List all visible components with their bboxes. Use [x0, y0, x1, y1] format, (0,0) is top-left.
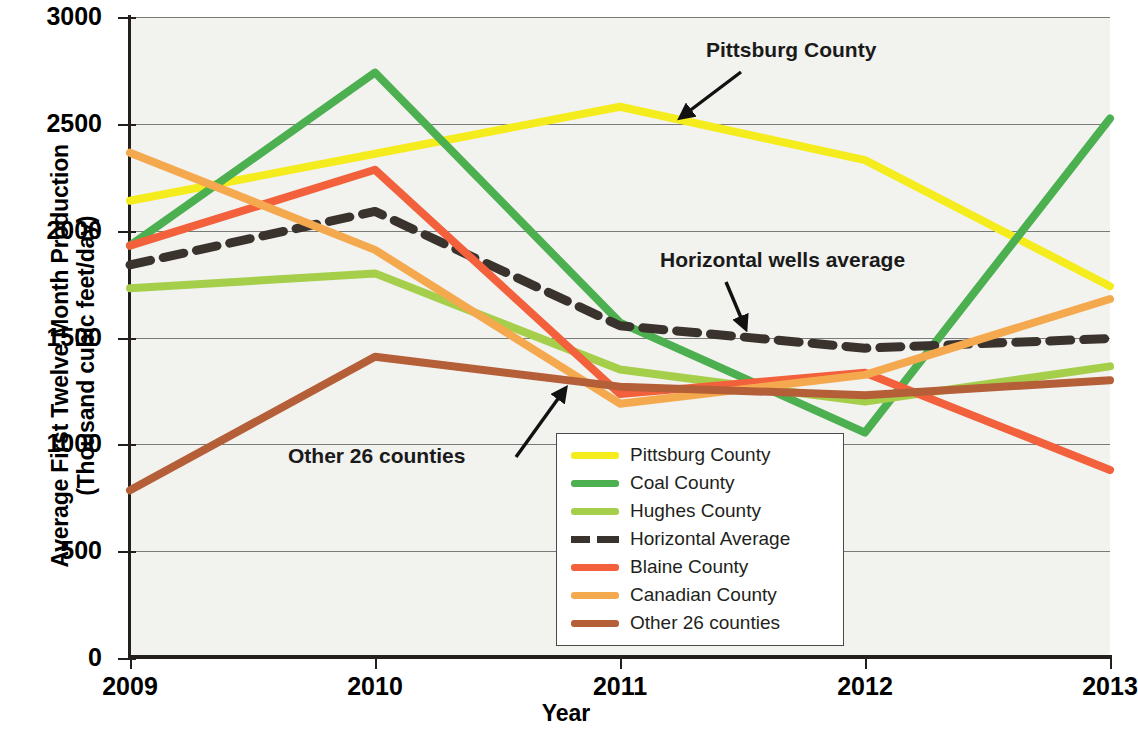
y-tick-mark — [118, 338, 136, 340]
y-tick-mark — [118, 124, 136, 126]
gridline — [130, 231, 1110, 232]
annotation-other-26-counties: Other 26 counties — [288, 444, 465, 468]
y-tick-label: 500 — [0, 536, 102, 565]
annotation-horizontal-wells-average: Horizontal wells average — [660, 248, 905, 272]
y-axis-line — [128, 15, 131, 660]
x-tick-label: 2009 — [102, 672, 158, 701]
gridline — [130, 124, 1110, 125]
legend-item[interactable]: Pittsburg County — [557, 441, 843, 469]
x-tick-label: 2013 — [1082, 672, 1138, 701]
x-axis-title: Year — [0, 700, 1132, 727]
y-tick-mark — [118, 231, 136, 233]
y-tick-label: 1000 — [0, 429, 102, 458]
legend-swatch-icon — [571, 620, 619, 627]
legend-label: Canadian County — [630, 584, 777, 606]
y-tick-mark — [118, 17, 136, 19]
legend-item[interactable]: Hughes County — [557, 497, 843, 525]
x-tick-mark — [620, 655, 622, 669]
legend-swatch-icon — [571, 564, 619, 571]
x-tick-mark — [865, 655, 867, 669]
legend-swatch-icon — [571, 592, 619, 599]
legend-swatch-icon — [571, 480, 619, 487]
legend: Pittsburg CountyCoal CountyHughes County… — [556, 433, 844, 646]
legend-item[interactable]: Coal County — [557, 469, 843, 497]
gridline — [130, 338, 1110, 339]
legend-swatch-icon — [571, 452, 619, 459]
legend-label: Blaine County — [630, 556, 748, 578]
y-tick-mark — [118, 444, 136, 446]
x-tick-label: 2010 — [347, 672, 403, 701]
x-tick-label: 2012 — [837, 672, 893, 701]
legend-label: Horizontal Average — [630, 528, 790, 550]
legend-item[interactable]: Other 26 counties — [557, 609, 843, 637]
legend-label: Coal County — [630, 472, 735, 494]
y-tick-label: 3000 — [0, 2, 102, 31]
y-tick-label: 1500 — [0, 323, 102, 352]
gridline — [130, 17, 1110, 18]
legend-item[interactable]: Canadian County — [557, 581, 843, 609]
x-tick-label: 2011 — [593, 672, 647, 701]
x-tick-mark — [1110, 655, 1112, 669]
y-tick-label: 2500 — [0, 109, 102, 138]
legend-label: Hughes County — [630, 500, 761, 522]
annotation-pittsburg-county: Pittsburg County — [706, 38, 876, 62]
legend-item[interactable]: Horizontal Average — [557, 525, 843, 553]
legend-swatch-icon — [571, 536, 619, 543]
y-tick-mark — [118, 551, 136, 553]
x-tick-mark — [130, 655, 132, 669]
legend-label: Other 26 counties — [630, 612, 780, 634]
y-tick-label: 2000 — [0, 216, 102, 245]
legend-item[interactable]: Blaine County — [557, 553, 843, 581]
legend-label: Pittsburg County — [630, 444, 770, 466]
legend-swatch-icon — [571, 508, 619, 515]
y-tick-label: 0 — [0, 643, 102, 672]
x-tick-mark — [375, 655, 377, 669]
